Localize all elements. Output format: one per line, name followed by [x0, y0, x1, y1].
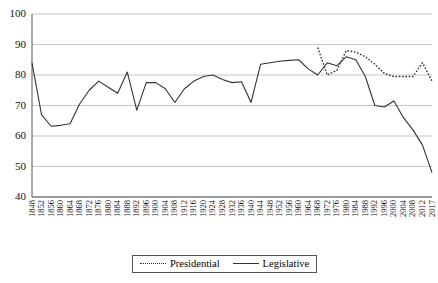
dotted-line-icon	[140, 263, 166, 264]
data-series-paths	[32, 48, 432, 173]
line-chart-plot: 405060708090100	[0, 0, 438, 283]
y-tick-label: 70	[15, 99, 27, 111]
chart-container: 405060708090100 184818521856186018641868…	[0, 0, 438, 283]
solid-line-icon	[233, 263, 259, 264]
y-tick-label: 50	[15, 160, 27, 172]
y-tick-label: 90	[15, 38, 27, 50]
legend-item-presidential: Presidential	[140, 258, 220, 269]
legend-label-legislative: Legislative	[263, 258, 310, 269]
chart-legend: Presidential Legislative	[132, 255, 317, 273]
y-tick-label: 60	[15, 129, 27, 141]
y-tick-label: 40	[15, 190, 27, 202]
gridlines	[32, 14, 432, 197]
y-tick-label: 100	[10, 7, 27, 19]
y-tick-label: 80	[15, 68, 27, 80]
legend-item-legislative: Legislative	[233, 258, 310, 269]
series-line-presidential	[318, 48, 432, 82]
series-line-legislative	[32, 57, 432, 173]
y-axis-tick-labels: 405060708090100	[10, 7, 27, 202]
legend-label-presidential: Presidential	[170, 258, 220, 269]
